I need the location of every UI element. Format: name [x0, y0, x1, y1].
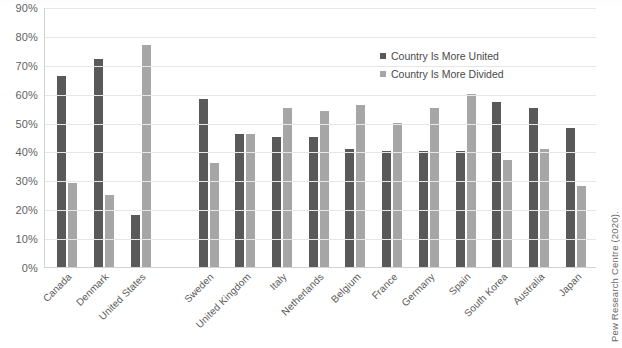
bar-divided — [540, 149, 549, 267]
bar-divided — [430, 108, 439, 267]
bar-united — [529, 108, 538, 267]
bar-chart: 90%80%70%60%50%40%30%20%10%0% Country Is… — [0, 0, 622, 348]
x-axis-label-slot: Australia — [520, 269, 557, 344]
bar-united — [566, 128, 575, 267]
bar-united — [235, 134, 244, 267]
y-axis-tick: 0% — [22, 262, 38, 274]
bar-group — [521, 8, 558, 267]
bar-group — [227, 8, 264, 267]
gridline — [45, 210, 596, 211]
y-axis-tick: 60% — [15, 89, 38, 101]
bar-group — [374, 8, 411, 267]
legend-item-united: Country Is More United — [380, 50, 504, 62]
y-axis-tick: 10% — [15, 233, 38, 245]
legend-swatch-divided-icon — [380, 71, 386, 77]
y-axis-tick: 30% — [15, 175, 38, 187]
x-axis-label-slot: United Kingdom — [226, 269, 263, 344]
gridline — [45, 152, 596, 153]
bar-united — [272, 137, 281, 267]
bar-divided — [246, 134, 255, 267]
bar-divided — [467, 94, 476, 267]
bar-divided — [356, 105, 365, 267]
x-axis-label: Italy — [268, 271, 289, 292]
legend-item-divided: Country Is More Divided — [380, 68, 504, 80]
gridline — [45, 181, 596, 182]
bar-divided — [283, 108, 292, 267]
bar-united — [199, 99, 208, 267]
x-axis-label: Japan — [556, 271, 583, 298]
y-axis-tick: 50% — [15, 118, 38, 130]
bar-group — [484, 8, 521, 267]
bar-group — [122, 8, 159, 267]
gridline — [45, 124, 596, 125]
x-axis-label: Spain — [447, 271, 473, 297]
y-axis-tick: 20% — [15, 204, 38, 216]
bar-divided — [577, 186, 586, 267]
bar-united — [492, 102, 501, 267]
y-axis-tick: 70% — [15, 60, 38, 72]
y-axis-tick: 40% — [15, 146, 38, 158]
bar-divided — [142, 45, 151, 267]
bar-united — [456, 151, 465, 267]
bar-group — [300, 8, 337, 267]
x-axis-label-gap — [158, 269, 189, 344]
chart-legend: Country Is More United Country Is More D… — [380, 50, 504, 80]
x-axis-label-slot: South Korea — [484, 269, 521, 344]
bar-divided — [503, 160, 512, 267]
gridline — [45, 8, 596, 9]
bar-group — [411, 8, 448, 267]
bar-divided — [105, 195, 114, 267]
y-axis-tick: 90% — [15, 2, 38, 14]
x-axis-label-slot: Belgium — [337, 269, 374, 344]
legend-swatch-united-icon — [380, 53, 386, 59]
bar-group — [557, 8, 594, 267]
legend-label-divided: Country Is More Divided — [391, 68, 504, 80]
bar-united — [382, 151, 391, 267]
gridline — [45, 37, 596, 38]
bar-united — [94, 59, 103, 267]
x-axis-labels: CanadaDenmarkUnited StatesSwedenUnited K… — [44, 269, 596, 344]
bar-divided — [68, 183, 77, 267]
x-axis-label-slot: Japan — [557, 269, 594, 344]
x-axis-label-slot: Germany — [410, 269, 447, 344]
bar-group — [447, 8, 484, 267]
gridline — [45, 95, 596, 96]
x-axis-label-slot: Netherlands — [300, 269, 337, 344]
gridline — [45, 66, 596, 67]
x-axis-label: France — [369, 271, 399, 301]
bar-group — [49, 8, 86, 267]
y-axis: 90%80%70%60%50%40%30%20%10%0% — [0, 8, 42, 268]
y-axis-tick: 80% — [15, 31, 38, 43]
bar-group — [264, 8, 301, 267]
source-attribution: Pew Research Centre (2020). — [609, 211, 620, 342]
bar-united — [131, 215, 140, 267]
legend-label-united: Country Is More United — [391, 50, 499, 62]
bar-united — [419, 151, 428, 267]
plot-area — [44, 8, 596, 268]
cropped-title-strip — [0, 0, 622, 3]
bar-divided — [210, 163, 219, 267]
bar-group — [190, 8, 227, 267]
bar-group — [337, 8, 374, 267]
bar-united — [309, 137, 318, 267]
x-axis-label-slot: United States — [122, 269, 159, 344]
bar-united — [345, 149, 354, 267]
x-axis-label: Canada — [41, 271, 74, 304]
bar-group — [86, 8, 123, 267]
bars-layer — [45, 8, 596, 267]
bar-divided — [320, 111, 329, 267]
bar-group-gap — [159, 8, 190, 267]
gridline — [45, 239, 596, 240]
bar-divided — [393, 123, 402, 267]
